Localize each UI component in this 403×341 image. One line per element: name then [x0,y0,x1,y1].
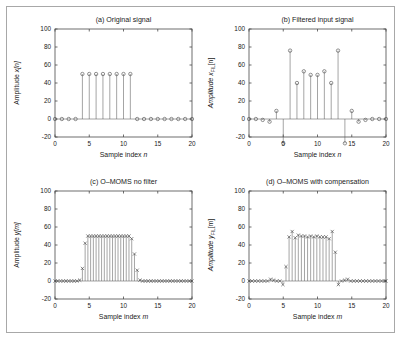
stem-series-c [53,234,193,282]
x-tick-label-a: 5 [87,140,91,147]
y-axis-label-c: Amplitude y[m] [13,221,21,268]
y-tick-label-c: 60 [44,223,52,230]
subplot-b: (b) Filtered input signal-20020406080100… [201,11,396,173]
y-tick-label-a: -20 [42,133,52,140]
y-tick-label-a: 80 [44,43,52,50]
subplot-d: (d) O–MOMS with compensation-20020406080… [201,173,396,335]
y-tick-label-b: 80 [238,43,246,50]
stem-series-a [53,72,193,120]
x-tick-label-a: 10 [120,140,128,147]
subplot-a: (a) Original signal-20020406080100051015… [7,11,202,173]
x-tick-label-b: 0 [247,140,251,147]
y-tick-label-a: 20 [44,97,52,104]
plot-title-a: (a) Original signal [96,16,152,24]
figure-frame: (a) Original signal-20020406080100051015… [6,6,395,333]
x-tick-label-d: 0 [247,302,251,309]
data-point-marker [364,118,367,121]
y-tick-label-b: 100 [234,25,245,32]
y-axis-label-a: Amplitude x[n] [13,60,21,105]
y-tick-label-a: 100 [40,25,51,32]
y-tick-label-b: 60 [238,61,246,68]
x-tick-label-b: 15 [348,140,356,147]
y-tick-label-c: 100 [40,187,51,194]
y-tick-label-b: 20 [238,97,246,104]
x-tick-label-b: 10 [314,140,322,147]
x-axis-label-b: Sample index n [294,151,342,159]
y-tick-label-c: 80 [44,205,52,212]
x-axis-label-a: Sample index n [100,151,148,159]
plot-title-c: (c) O–MOMS no filter [90,178,158,186]
plot-canvas-c: (c) O–MOMS no filter-2002040608010005101… [7,173,202,335]
y-tick-label-c: 20 [44,259,52,266]
y-tick-label-d: 80 [238,205,246,212]
x-tick-label-b: 20 [382,140,390,147]
data-point-marker [261,118,264,121]
x-tick-label-a: 15 [154,140,162,147]
y-tick-label-b: -20 [236,133,246,140]
x-axis-label-c: Sample index m [99,313,149,321]
x-tick-label-d: 20 [382,302,390,309]
x-tick-label-a: 20 [188,140,196,147]
y-tick-label-a: 40 [44,79,52,86]
plot-canvas-b: (b) Filtered input signal-20020406080100… [201,11,396,173]
stem-series-d [247,230,387,286]
y-tick-label-d: 60 [238,223,246,230]
x-tick-label-d: 10 [314,302,322,309]
y-tick-label-d: 20 [238,259,246,266]
y-tick-label-b: 0 [241,115,245,122]
y-tick-label-d: -20 [236,295,246,302]
x-tick-label-d: 5 [281,302,285,309]
x-tick-label-c: 15 [154,302,162,309]
x-tick-label-d: 15 [348,302,356,309]
y-tick-label-d: 100 [234,187,245,194]
x-tick-label-c: 10 [120,302,128,309]
x-tick-label-a: 0 [53,140,57,147]
x-tick-label-c: 5 [87,302,91,309]
y-tick-label-c: 0 [47,277,51,284]
axes-box-d [249,191,386,299]
y-tick-label-a: 0 [47,115,51,122]
subplot-c: (c) O–MOMS no filter-2002040608010005101… [7,173,202,335]
x-tick-label-c: 20 [188,302,196,309]
y-tick-label-d: 40 [238,241,246,248]
y-tick-label-c: -20 [42,295,52,302]
y-tick-label-a: 60 [44,61,52,68]
x-axis-label-d: Sample index m [293,313,343,321]
x-tick-label-c: 0 [53,302,57,309]
y-tick-label-d: 0 [241,277,245,284]
plot-title-b: (b) Filtered input signal [281,16,354,24]
y-tick-label-c: 40 [44,241,52,248]
y-axis-label-d: Amplitude yFIL[m] [207,219,216,273]
plot-canvas-d: (d) O–MOMS with compensation-20020406080… [201,173,396,335]
y-axis-label-b: Amplitude xFIL[n] [207,58,216,110]
stem-series-b [247,49,387,145]
plot-canvas-a: (a) Original signal-20020406080100051015… [7,11,202,173]
y-tick-label-b: 40 [238,79,246,86]
plot-title-d: (d) O–MOMS with compensation [266,178,369,186]
